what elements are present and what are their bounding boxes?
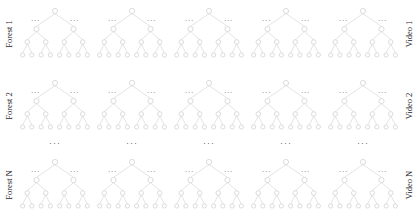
tree-node bbox=[71, 177, 76, 182]
tree-edge bbox=[155, 116, 160, 125]
tree-edge bbox=[104, 44, 109, 53]
tree-edge bbox=[391, 44, 396, 53]
tree-node bbox=[30, 125, 34, 129]
tree-edge bbox=[83, 44, 88, 53]
tree-edge bbox=[295, 44, 300, 53]
tree-edge bbox=[181, 116, 186, 125]
tree-edge bbox=[195, 195, 200, 204]
tree-node bbox=[333, 40, 338, 45]
tree-edge bbox=[27, 183, 36, 191]
row-continuation-ellipsis: ··· bbox=[357, 139, 369, 148]
tree-edge bbox=[349, 195, 354, 204]
tree-node bbox=[270, 125, 274, 129]
tree-edge bbox=[382, 104, 391, 112]
tree-edge bbox=[295, 32, 304, 40]
tree-edge bbox=[181, 32, 190, 40]
binary-tree: ······ bbox=[252, 80, 321, 129]
tree-edge bbox=[27, 104, 36, 112]
tree-node bbox=[360, 80, 365, 85]
tree-edge bbox=[331, 195, 336, 204]
tree-edge bbox=[295, 195, 300, 204]
row-label-video-1: Video 1 bbox=[402, 4, 417, 64]
tree-node bbox=[144, 204, 148, 208]
tree-node bbox=[307, 53, 311, 57]
tree-edge-ellipsis: ··· bbox=[185, 168, 194, 176]
tree-node bbox=[71, 98, 76, 103]
tree-node bbox=[261, 125, 265, 129]
tree-node bbox=[289, 125, 293, 129]
tree-edge bbox=[64, 195, 69, 204]
tree-node bbox=[202, 204, 206, 208]
tree-edge bbox=[104, 104, 113, 112]
tree-node bbox=[116, 125, 120, 129]
tree-edge bbox=[314, 195, 319, 204]
tree-node bbox=[342, 98, 347, 103]
tree-edge-ellipsis: ··· bbox=[147, 168, 156, 176]
tree-node bbox=[135, 53, 139, 57]
tree-node bbox=[338, 53, 342, 57]
tree-edge bbox=[354, 116, 359, 125]
tree-node bbox=[379, 26, 384, 31]
tree-edge bbox=[37, 32, 46, 40]
tree-node bbox=[234, 191, 239, 196]
tree-edge bbox=[314, 116, 319, 125]
tree-edge bbox=[160, 116, 165, 125]
tree-node bbox=[188, 98, 193, 103]
tree-edge-ellipsis: ··· bbox=[185, 17, 194, 25]
binary-tree: ······ bbox=[252, 8, 321, 57]
tree-edge bbox=[386, 44, 391, 53]
tree-node bbox=[116, 204, 120, 208]
tree-edge bbox=[218, 183, 227, 191]
tree-edge bbox=[291, 44, 296, 53]
tree-edge bbox=[100, 116, 105, 125]
binary-tree: ······ bbox=[98, 8, 167, 57]
tree-node bbox=[129, 8, 134, 13]
tree-edge bbox=[46, 195, 51, 204]
tree-edge bbox=[104, 183, 113, 191]
tree-edge bbox=[83, 195, 88, 204]
tree-edge bbox=[372, 32, 381, 40]
tree-edge-ellipsis: ··· bbox=[70, 89, 79, 97]
tree-node bbox=[193, 204, 197, 208]
tree-node bbox=[298, 204, 302, 208]
tree-node bbox=[256, 40, 261, 45]
tree-node bbox=[43, 112, 48, 117]
tree-node bbox=[67, 204, 71, 208]
forest-trees-svg: ······························ bbox=[18, 155, 400, 213]
tree-edge-ellipsis: ··· bbox=[108, 89, 117, 97]
tree-edge-ellipsis: ··· bbox=[301, 168, 310, 176]
tree-edge bbox=[78, 44, 83, 53]
binary-tree: ······ bbox=[252, 159, 321, 208]
tree-node bbox=[239, 125, 243, 129]
tree-node bbox=[21, 125, 25, 129]
tree-edge bbox=[46, 44, 51, 53]
tree-node bbox=[289, 204, 293, 208]
tree-edge bbox=[141, 44, 146, 53]
tree-edge bbox=[218, 32, 227, 40]
tree-node bbox=[120, 191, 125, 196]
tree-edge bbox=[228, 183, 237, 191]
tree-edge bbox=[74, 104, 83, 112]
tree-node bbox=[148, 26, 153, 31]
binary-tree: ······ bbox=[175, 159, 244, 208]
tree-node bbox=[25, 40, 30, 45]
tree-node bbox=[279, 53, 283, 57]
tree-node bbox=[80, 112, 85, 117]
tree-edge bbox=[268, 32, 277, 40]
tree-edge-ellipsis: ··· bbox=[339, 89, 348, 97]
tree-node bbox=[216, 112, 221, 117]
tree-edge bbox=[382, 183, 391, 191]
tree-edge-ellipsis: ··· bbox=[108, 168, 117, 176]
tree-node bbox=[30, 53, 34, 57]
tree-node bbox=[384, 204, 388, 208]
tree-edge bbox=[64, 44, 69, 53]
tree-node bbox=[342, 177, 347, 182]
tree-edge bbox=[309, 116, 314, 125]
tree-edge bbox=[104, 116, 109, 125]
tree-node bbox=[356, 204, 360, 208]
tree-edge bbox=[64, 104, 73, 112]
row-label-video-2: Video 2 bbox=[402, 76, 417, 136]
tree-edge-ellipsis: ··· bbox=[147, 89, 156, 97]
tree-node bbox=[125, 53, 129, 57]
tree-node bbox=[370, 112, 375, 117]
